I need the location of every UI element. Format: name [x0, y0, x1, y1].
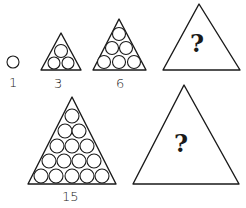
circle-icon: [7, 56, 19, 68]
label-6: 6: [116, 76, 124, 91]
figure-unknown-bottom-triangle: ?: [133, 85, 239, 184]
circle-icon: [58, 124, 72, 138]
label-15: 15: [62, 189, 79, 204]
circle-icon: [62, 57, 74, 69]
triangular-numbers-figure: 1 3 6 ? 15: [0, 0, 246, 208]
circle-icon: [48, 57, 60, 69]
question-mark-icon: ?: [174, 129, 188, 158]
circle-icon: [72, 154, 86, 168]
circle-icon: [65, 109, 79, 123]
figure-1-single-circle: [7, 56, 19, 68]
circle-icon: [80, 169, 94, 183]
circle-icon: [113, 28, 126, 41]
question-mark-icon: ?: [190, 29, 204, 58]
figure-15-triangle: [28, 97, 116, 184]
circle-icon: [87, 154, 101, 168]
circle-icon: [98, 56, 111, 69]
circle-icon: [65, 139, 79, 153]
circle-icon: [95, 169, 109, 183]
circle-icon: [42, 154, 56, 168]
label-1: 1: [9, 75, 17, 90]
figure-unknown-top-triangle: ?: [163, 4, 240, 70]
circle-icon: [34, 169, 48, 183]
circle-icon: [50, 139, 64, 153]
circle-icon: [72, 124, 86, 138]
figure-3-triangle: [41, 33, 81, 70]
circle-icon: [65, 169, 79, 183]
circle-icon: [55, 45, 68, 58]
circle-icon: [80, 139, 94, 153]
circle-icon: [49, 169, 63, 183]
circle-icon: [113, 56, 126, 69]
circle-icon: [106, 42, 119, 55]
circle-icon: [128, 56, 141, 69]
label-3: 3: [54, 76, 62, 91]
circle-icon: [120, 42, 133, 55]
circle-icon: [57, 154, 71, 168]
figure-6-triangle: [93, 19, 146, 70]
